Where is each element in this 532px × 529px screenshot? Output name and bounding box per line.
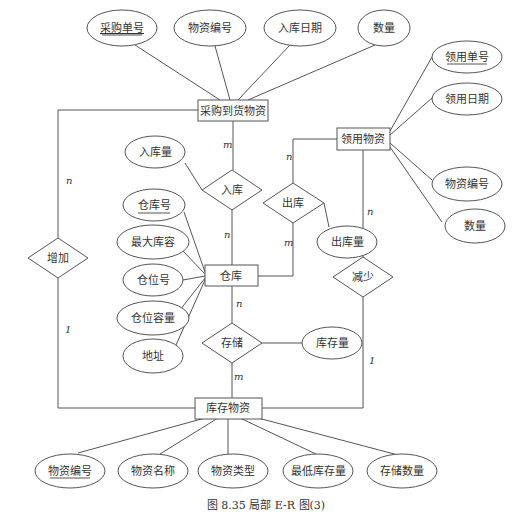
- relationship-inbound: 入库: [202, 170, 262, 210]
- relationship-decrease: 减少: [333, 257, 393, 297]
- attr-storage-quantity: 库存量: [302, 327, 362, 359]
- svg-text:入库日期: 入库日期: [278, 22, 322, 35]
- svg-text:物资类型: 物资类型: [211, 464, 255, 478]
- attr-warehouse-no: 仓库号: [123, 189, 185, 221]
- svg-text:采购到货物资: 采购到货物资: [200, 104, 266, 118]
- attr-material-name: 物资名称: [118, 454, 188, 488]
- svg-text:地址: 地址: [142, 349, 164, 363]
- attr-purchase-inbound-date: 入库日期: [264, 10, 336, 46]
- card-increase-inventory: 1: [65, 324, 71, 335]
- svg-text:仓位号: 仓位号: [137, 273, 170, 287]
- svg-text:数量: 数量: [464, 220, 486, 233]
- entity-purchase: 采购到货物资: [198, 100, 268, 121]
- svg-text:数量: 数量: [373, 22, 395, 35]
- attr-address: 地址: [123, 339, 183, 373]
- entity-warehouse: 仓库: [205, 265, 258, 286]
- entity-inventory: 库存物资: [195, 398, 262, 419]
- svg-text:出库: 出库: [282, 196, 304, 210]
- svg-text:物资编号: 物资编号: [188, 21, 232, 35]
- svg-text:物资名称: 物资名称: [131, 464, 175, 478]
- svg-text:仓位容量: 仓位容量: [131, 311, 175, 325]
- card-purchase-increase: n: [66, 175, 72, 186]
- relationship-outbound: 出库: [263, 183, 324, 223]
- attr-inventory-material-no: 物资编号: [35, 454, 105, 488]
- card-outbound-warehouse: m: [284, 237, 293, 248]
- attr-outbound-quantity: 出库量: [317, 226, 377, 258]
- svg-text:领用物资: 领用物资: [341, 132, 385, 146]
- relationship-increase: 增加: [28, 238, 88, 278]
- attr-purchase-material-no: 物资编号: [174, 10, 246, 46]
- card-requisition-decrease: n: [367, 206, 373, 217]
- svg-text:增加: 增加: [47, 251, 69, 265]
- svg-text:出库量: 出库量: [331, 235, 364, 249]
- svg-text:存储: 存储: [221, 336, 243, 350]
- card-purchase-inbound: m: [223, 139, 232, 150]
- attr-requisition-quantity: 数量: [445, 209, 505, 243]
- attr-requisition-no: 领用单号: [432, 41, 502, 73]
- svg-text:减少: 减少: [352, 271, 374, 284]
- attr-max-capacity: 最大库容: [117, 225, 189, 259]
- attr-purchase-quantity: 数量: [358, 10, 410, 46]
- svg-text:入库量: 入库量: [139, 146, 172, 159]
- svg-text:采购单号: 采购单号: [100, 21, 144, 35]
- attr-purchase-order-no: 采购单号: [87, 10, 157, 46]
- svg-text:仓库号: 仓库号: [138, 198, 171, 212]
- svg-text:最大库容: 最大库容: [131, 235, 175, 249]
- svg-text:存储数量: 存储数量: [380, 464, 424, 478]
- card-storage-inventory: m: [234, 371, 243, 382]
- attr-requisition-date: 领用日期: [432, 83, 502, 115]
- card-inbound-warehouse: n: [224, 229, 230, 240]
- attr-material-type: 物资类型: [198, 454, 268, 488]
- svg-text:领用单号: 领用单号: [445, 51, 489, 64]
- attr-requisition-material-no: 物资编号: [432, 167, 502, 201]
- svg-text:领用日期: 领用日期: [445, 93, 489, 106]
- card-decrease-inventory: 1: [369, 355, 375, 366]
- card-requisition-outbound: n: [286, 151, 292, 162]
- svg-text:物资编号: 物资编号: [445, 177, 489, 191]
- svg-text:仓库: 仓库: [220, 269, 242, 283]
- svg-text:物资编号: 物资编号: [48, 464, 92, 478]
- attr-slot-capacity: 仓位容量: [117, 301, 189, 335]
- svg-text:最低库存量: 最低库存量: [291, 464, 346, 478]
- attr-slot-no: 仓位号: [123, 264, 183, 296]
- er-diagram: 采购到货物资 领用物资 仓库 库存物资 入库 出库 增加 减少 存储 采购单号: [0, 0, 532, 529]
- relationship-storage: 存储: [202, 323, 262, 363]
- svg-text:库存量: 库存量: [316, 336, 349, 350]
- figure-caption: 图 8.35 局部 E-R 图(3): [0, 496, 532, 512]
- entity-requisition: 领用物资: [337, 128, 390, 150]
- attr-stored-quantity: 存储数量: [367, 454, 437, 488]
- attr-inbound-quantity: 入库量: [125, 136, 185, 168]
- svg-text:库存物资: 库存物资: [206, 401, 250, 415]
- svg-text:入库: 入库: [221, 184, 243, 197]
- attr-min-stock: 最低库存量: [283, 454, 353, 488]
- card-warehouse-storage: n: [236, 298, 242, 309]
